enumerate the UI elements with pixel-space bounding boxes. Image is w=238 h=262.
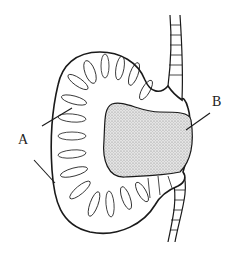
gland-diagram bbox=[0, 0, 238, 262]
label-b: B bbox=[212, 94, 221, 110]
lumen bbox=[104, 103, 193, 177]
label-a: A bbox=[18, 132, 28, 148]
